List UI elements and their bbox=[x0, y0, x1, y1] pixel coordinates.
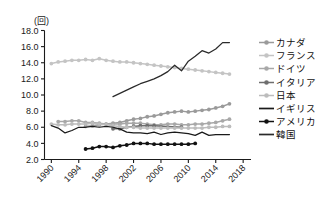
data-point-marker bbox=[118, 125, 122, 129]
x-tick-label: 2002 bbox=[117, 163, 138, 184]
data-point-marker bbox=[111, 59, 115, 63]
legend-item-label: イギリス bbox=[275, 102, 316, 115]
legend-item-韓国[interactable]: 韓国 bbox=[258, 128, 333, 141]
data-point-marker bbox=[228, 102, 232, 106]
data-point-marker bbox=[200, 108, 204, 112]
y-tick-label: 18.0 bbox=[21, 26, 39, 36]
data-point-marker bbox=[145, 126, 149, 130]
data-point-marker bbox=[152, 142, 156, 146]
y-tick-label: 14.0 bbox=[21, 58, 39, 68]
data-point-marker bbox=[180, 109, 184, 113]
data-point-marker bbox=[166, 122, 170, 126]
legend-item-アメリカ[interactable]: アメリカ bbox=[258, 115, 333, 128]
data-point-marker bbox=[214, 106, 218, 110]
data-point-marker bbox=[186, 142, 190, 146]
data-point-marker bbox=[56, 123, 60, 127]
data-point-marker bbox=[139, 116, 143, 120]
series-韓国 bbox=[113, 43, 229, 97]
legend-marker-line-icon bbox=[258, 128, 275, 141]
data-point-marker bbox=[97, 57, 101, 61]
data-point-marker bbox=[84, 122, 88, 126]
data-point-marker bbox=[214, 121, 218, 125]
data-point-marker bbox=[173, 142, 177, 146]
y-tick-label: 16.0 bbox=[21, 42, 39, 52]
legend-item-label: アメリカ bbox=[275, 115, 316, 128]
legend-marker-circle-icon bbox=[258, 49, 275, 62]
series-line bbox=[113, 43, 229, 97]
data-point-marker bbox=[104, 58, 108, 62]
data-point-marker bbox=[118, 144, 122, 148]
legend-item-label: カナダ bbox=[275, 36, 306, 49]
data-point-marker bbox=[207, 70, 211, 74]
x-tick-label: 1990 bbox=[35, 163, 56, 184]
x-tick-label: 2018 bbox=[226, 163, 247, 184]
legend-marker-circle-icon bbox=[258, 89, 275, 102]
data-point-marker bbox=[193, 126, 197, 130]
data-point-marker bbox=[180, 142, 184, 146]
data-point-marker bbox=[145, 115, 149, 119]
chart-container: (回) 18.016.014.012.010.08.06.04.02.0 199… bbox=[0, 0, 333, 197]
legend-marker-line-icon bbox=[258, 102, 275, 115]
data-point-marker bbox=[173, 110, 177, 114]
legend-item-フランス[interactable]: フランス bbox=[258, 49, 333, 62]
data-point-marker bbox=[221, 125, 225, 129]
x-tick-label: 2014 bbox=[199, 163, 220, 184]
data-point-marker bbox=[63, 123, 67, 127]
data-point-marker bbox=[152, 63, 156, 67]
data-point-marker bbox=[166, 111, 170, 115]
data-point-marker bbox=[166, 65, 170, 69]
x-tick-label: 1998 bbox=[89, 163, 110, 184]
data-point-marker bbox=[186, 110, 190, 114]
data-point-marker bbox=[91, 146, 95, 150]
data-point-marker bbox=[84, 147, 88, 151]
data-point-marker bbox=[132, 141, 136, 145]
data-point-marker bbox=[132, 117, 136, 121]
data-point-marker bbox=[221, 119, 225, 123]
data-point-marker bbox=[221, 71, 225, 75]
data-point-marker bbox=[97, 122, 101, 126]
data-point-marker bbox=[111, 146, 115, 150]
data-point-marker bbox=[166, 126, 170, 130]
legend-item-イタリア[interactable]: イタリア bbox=[258, 76, 333, 89]
data-point-marker bbox=[118, 60, 122, 64]
legend-item-日本[interactable]: 日本 bbox=[258, 89, 333, 102]
data-point-marker bbox=[207, 108, 211, 112]
data-point-marker bbox=[145, 62, 149, 66]
data-point-marker bbox=[166, 142, 170, 146]
data-point-marker bbox=[159, 126, 163, 130]
data-point-marker bbox=[152, 126, 156, 130]
data-point-marker bbox=[125, 121, 129, 125]
data-point-marker bbox=[228, 72, 232, 76]
data-point-marker bbox=[159, 64, 163, 68]
data-point-marker bbox=[125, 143, 129, 147]
legend-item-イギリス[interactable]: イギリス bbox=[258, 102, 333, 115]
data-point-marker bbox=[125, 60, 129, 64]
data-point-marker bbox=[159, 112, 163, 116]
data-point-marker bbox=[56, 60, 60, 64]
legend-marker-circle-icon bbox=[258, 62, 275, 75]
data-point-marker bbox=[125, 125, 129, 129]
data-point-marker bbox=[200, 122, 204, 126]
data-point-marker bbox=[207, 121, 211, 125]
data-point-marker bbox=[49, 62, 53, 66]
data-point-marker bbox=[200, 69, 204, 73]
data-point-marker bbox=[97, 145, 101, 149]
legend-item-カナダ[interactable]: カナダ bbox=[258, 36, 333, 49]
data-point-marker bbox=[139, 62, 143, 66]
legend-item-label: フランス bbox=[275, 49, 316, 62]
data-point-marker bbox=[159, 142, 163, 146]
data-series-group bbox=[49, 43, 231, 151]
data-point-marker bbox=[228, 125, 232, 129]
data-point-marker bbox=[152, 114, 156, 118]
data-point-marker bbox=[221, 104, 225, 108]
data-point-marker bbox=[214, 71, 218, 75]
data-point-marker bbox=[91, 58, 95, 62]
x-axis-tick-group: 19901994199820022006201020142018 bbox=[35, 160, 248, 185]
data-point-marker bbox=[186, 67, 190, 71]
y-tick-label: 12.0 bbox=[21, 74, 39, 84]
legend-item-label: 韓国 bbox=[275, 128, 296, 141]
legend-item-ドイツ[interactable]: ドイツ bbox=[258, 62, 333, 75]
legend-marker-circle-icon bbox=[258, 115, 275, 128]
data-point-marker bbox=[207, 125, 211, 129]
data-point-marker bbox=[84, 58, 88, 62]
